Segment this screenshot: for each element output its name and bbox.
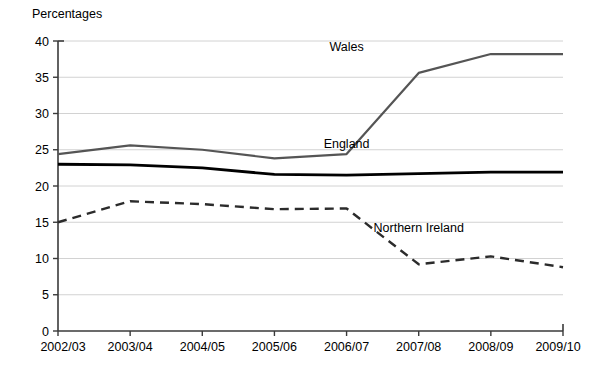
y-tick-label: 10 [35,252,49,266]
y-tick-label: 20 [35,180,49,194]
x-tick-label: 2006/07 [324,340,369,354]
x-tick-label: 2005/06 [252,340,297,354]
chart-container: Percentages 4035302520151050 2002/032003… [0,0,611,377]
x-tick-label: 2004/05 [180,340,225,354]
y-tick-label: 15 [35,216,49,230]
chart-background [0,0,611,377]
y-tick-label: 30 [35,107,49,121]
y-axis-title: Percentages [32,7,102,21]
series-label-northern-ireland: Northern Ireland [374,221,464,235]
x-tick-label: 2002/03 [40,340,85,354]
x-tick-label: 2008/09 [468,340,513,354]
y-tick-label: 40 [35,35,49,49]
x-tick-label: 2003/04 [108,340,153,354]
x-tick-label: 2009/10 [535,340,580,354]
line-chart: Percentages 4035302520151050 2002/032003… [0,0,611,377]
series-label-england: England [324,137,370,151]
series-label-wales: Wales [329,40,363,54]
y-tick-label: 0 [42,325,49,339]
y-tick-label: 5 [42,288,49,302]
x-tick-label: 2007/08 [396,340,441,354]
y-tick-label: 35 [35,71,49,85]
y-tick-label: 25 [35,143,49,157]
